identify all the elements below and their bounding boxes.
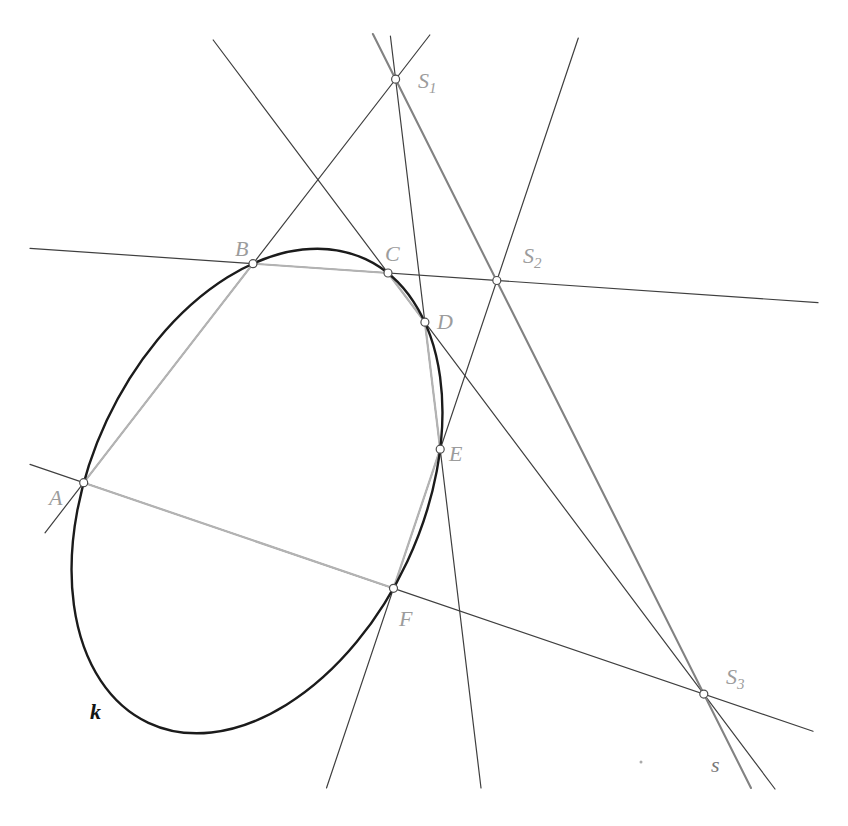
line-CD-extended (213, 40, 775, 789)
point-label-S3: S3 (726, 664, 745, 692)
pascal-line-s (373, 34, 751, 788)
point-D (421, 318, 429, 326)
hexagon-side-BC (253, 264, 388, 273)
point-label-B: B (235, 236, 248, 261)
pascal-line-label-s: s (711, 752, 720, 777)
point-label-E: E (448, 441, 463, 466)
point-E (436, 445, 444, 453)
scan-speck (640, 761, 643, 764)
point-label-sub-S3: 3 (736, 676, 745, 692)
point-label-S2: S2 (523, 243, 542, 271)
hexagon-side-AB (84, 264, 253, 483)
point-C (384, 269, 392, 277)
line-BC-extended (30, 248, 818, 302)
point-label-sub-S1: 1 (429, 80, 437, 96)
conic-label-k: k (90, 699, 101, 724)
point-label-C: C (385, 241, 400, 266)
hexagon-side-EF (394, 449, 441, 588)
point-label-A: A (47, 485, 63, 510)
point-A (80, 479, 88, 487)
point-F (390, 584, 398, 592)
point-S3 (700, 690, 708, 698)
pascal-theorem-figure: ksABCDEFS1S2S3 (0, 0, 848, 826)
point-S1 (392, 75, 400, 83)
point-label-S1: S1 (418, 68, 437, 96)
point-S2 (493, 277, 501, 285)
figure-page: ksABCDEFS1S2S3 (0, 0, 848, 826)
point-B (249, 260, 257, 268)
hexagon-side-FA (84, 483, 394, 589)
line-EF-extended (327, 38, 579, 788)
point-label-sub-S2: 2 (534, 255, 542, 271)
point-label-D: D (436, 309, 453, 334)
point-label-F: F (398, 606, 413, 631)
